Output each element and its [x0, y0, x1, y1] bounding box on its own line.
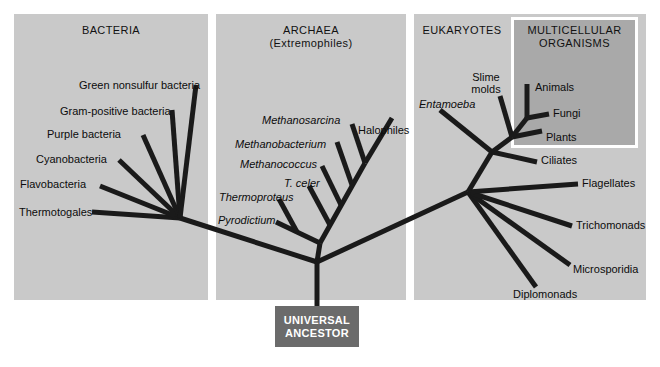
branch-methanococcus — [322, 166, 341, 205]
branch-flagellates — [468, 184, 578, 192]
label-trichomonads: Trichomonads — [576, 219, 645, 231]
branch-trichomonads — [468, 192, 572, 226]
branch-pyrodictium — [276, 222, 320, 243]
label-plants: Plants — [546, 131, 577, 143]
universal-ancestor-line2: ANCESTOR — [284, 327, 350, 340]
label-purple-bacteria: Purple bacteria — [47, 128, 121, 140]
branch-cyanobacteria — [119, 160, 180, 218]
label-methanobacterium: Methanobacterium — [235, 138, 326, 150]
branch-fungi — [527, 114, 549, 118]
branch-diplomonads — [468, 192, 536, 287]
label-cyanobacteria: Cyanobacteria — [36, 153, 107, 165]
label-t-celer: T. celer — [284, 177, 320, 189]
label-slime-molds: Slime molds — [464, 71, 508, 95]
label-gram-positive-bacteria: Gram-positive bacteria — [60, 105, 171, 117]
label-methanococcus: Methanococcus — [240, 158, 317, 170]
branch-entamoeba — [440, 110, 492, 152]
branch-ciliates — [492, 152, 537, 162]
label-fungi: Fungi — [553, 107, 581, 119]
branch-methanobacterium — [337, 142, 352, 185]
label-entamoeba: Entamoeba — [419, 98, 475, 110]
label-animals: Animals — [535, 81, 574, 93]
branch-upper-euk-stem — [468, 152, 492, 192]
label-slime-molds-line1: Slime — [472, 71, 500, 83]
universal-ancestor-line1: UNIVERSAL — [284, 314, 350, 327]
label-thermotogales: Thermotogales — [19, 206, 92, 218]
universal-ancestor-box: UNIVERSAL ANCESTOR — [275, 306, 359, 347]
label-pyrodictium: Pyrodictium — [218, 214, 275, 226]
label-ciliates: Ciliates — [541, 154, 577, 166]
label-diplomonads: Diplomonads — [513, 288, 577, 300]
label-slime-molds-line2: molds — [471, 83, 500, 95]
branch-t-celer — [309, 186, 330, 225]
label-flavobacteria: Flavobacteria — [20, 178, 86, 190]
label-green-nonsulfur-bacteria: Green nonsulfur bacteria — [79, 79, 200, 91]
label-flagellates: Flagellates — [582, 177, 635, 189]
label-microsporidia: Microsporidia — [573, 263, 638, 275]
branch-green-nonsulfur — [180, 85, 196, 218]
figure-canvas: BACTERIA ARCHAEA (Extremophiles) EUKARYO… — [0, 0, 660, 367]
branch-crown-stem — [492, 137, 512, 152]
label-thermoproteus: Thermoproteus — [219, 191, 294, 203]
label-halophiles: Halophiles — [358, 124, 409, 136]
branch-slime-molds — [500, 96, 512, 137]
branch-microsporidia — [468, 192, 570, 265]
label-methanosarcina: Methanosarcina — [262, 114, 340, 126]
